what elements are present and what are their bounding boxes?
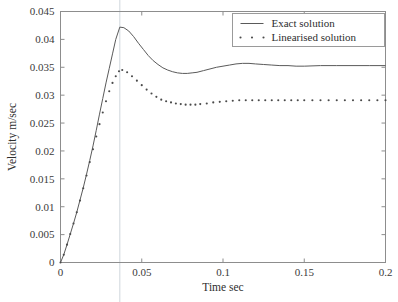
series-data-point xyxy=(251,99,253,101)
series-data-point xyxy=(328,99,330,101)
series-data-point xyxy=(66,244,68,246)
series-data-point xyxy=(82,187,84,189)
series-data-point xyxy=(98,123,100,125)
series-data-point xyxy=(111,82,113,84)
series-data-point xyxy=(238,99,240,101)
series-line-exact-solution xyxy=(61,27,386,262)
x-axis-title: Time sec xyxy=(202,281,243,293)
series-data-point xyxy=(121,69,123,71)
series-data-point xyxy=(277,99,279,101)
series-data-point xyxy=(63,254,65,256)
x-tick-label: 0.05 xyxy=(132,266,152,278)
y-tick-label: 0.02 xyxy=(35,145,54,157)
series-data-point xyxy=(79,200,81,202)
y-tick-label: 0.005 xyxy=(30,228,55,240)
series-data-point xyxy=(102,111,104,113)
y-axis-title: Velocity m/sec xyxy=(6,103,19,171)
legend-label: Linearised solution xyxy=(272,31,357,43)
series-data-point xyxy=(136,80,138,82)
series-data-point xyxy=(89,161,91,163)
series-data-point xyxy=(344,99,346,101)
legend-label: Exact solution xyxy=(272,17,336,29)
x-tick-label: 0.1 xyxy=(216,266,230,278)
series-data-point xyxy=(206,102,208,104)
series-data-point xyxy=(69,233,71,235)
series-data-point xyxy=(311,99,313,101)
series-data-point xyxy=(336,99,338,101)
series-data-point xyxy=(59,261,61,263)
series-data-point xyxy=(155,96,157,98)
series-data-point xyxy=(165,100,167,102)
series-data-point xyxy=(360,99,362,101)
series-data-point xyxy=(258,99,260,101)
series-data-point xyxy=(319,99,321,101)
y-tick-label: 0.015 xyxy=(30,173,55,185)
series-data-point xyxy=(180,103,182,105)
series-data-point xyxy=(212,101,214,103)
series-data-point xyxy=(271,99,273,101)
series-data-point xyxy=(384,99,386,101)
legend-sample-dot xyxy=(239,36,241,38)
chart-canvas: 00.0050.010.0150.020.0250.030.0350.040.0… xyxy=(0,0,398,302)
series-data-point xyxy=(85,174,87,176)
series-data-point xyxy=(189,104,191,106)
series-data-point xyxy=(150,92,152,94)
y-tick-label: 0 xyxy=(49,256,55,268)
y-tick-label: 0.035 xyxy=(30,61,55,73)
series-data-point xyxy=(95,135,97,137)
legend-sample-dot xyxy=(262,36,264,38)
series-data-point xyxy=(72,222,74,224)
series-data-point xyxy=(290,99,292,101)
x-tick-label: 0 xyxy=(58,266,64,278)
series-data-point xyxy=(160,99,162,101)
series-data-point xyxy=(170,101,172,103)
series-data-point xyxy=(284,99,286,101)
series-data-point xyxy=(146,89,148,91)
x-tick-label: 0.15 xyxy=(295,266,315,278)
series-data-point xyxy=(264,99,266,101)
series-data-point xyxy=(92,148,94,150)
series-data-point xyxy=(118,70,120,72)
x-tick-label: 0.2 xyxy=(379,266,393,278)
y-tick-label: 0.04 xyxy=(35,33,55,45)
y-tick-label: 0.025 xyxy=(30,117,55,129)
series-data-point xyxy=(376,99,378,101)
series-data-point xyxy=(219,101,221,103)
series-data-point xyxy=(368,99,370,101)
series-data-point xyxy=(199,103,201,105)
series-data-point xyxy=(175,102,177,104)
series-data-point xyxy=(245,99,247,101)
series-data-point xyxy=(297,99,299,101)
series-dots-linearised-solution xyxy=(59,69,386,264)
series-data-point xyxy=(185,104,187,106)
series-data-point xyxy=(108,90,110,92)
velocity-time-chart: 00.0050.010.0150.020.0250.030.0350.040.0… xyxy=(0,0,398,302)
y-tick-label: 0.045 xyxy=(30,5,55,17)
plot-frame xyxy=(61,12,386,263)
series-data-point xyxy=(141,84,143,86)
series-data-point xyxy=(225,100,227,102)
series-data-point xyxy=(352,99,354,101)
y-tick-label: 0.01 xyxy=(35,201,54,213)
series-data-point xyxy=(126,71,128,73)
series-data-point xyxy=(76,211,78,213)
y-tick-label: 0.03 xyxy=(35,89,55,101)
legend-sample-dot xyxy=(251,36,253,38)
series-data-point xyxy=(232,100,234,102)
series-data-point xyxy=(194,104,196,106)
series-data-point xyxy=(131,75,133,77)
series-data-point xyxy=(105,100,107,102)
series-data-point xyxy=(115,75,117,77)
series-data-point xyxy=(303,99,305,101)
